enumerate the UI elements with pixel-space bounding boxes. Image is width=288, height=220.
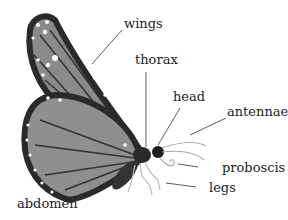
label-thorax: thorax	[135, 53, 178, 66]
label-wings: wings	[124, 17, 163, 30]
label-proboscis: proboscis	[222, 161, 285, 174]
butterfly-diagram: wings thorax head antennae proboscis leg…	[0, 0, 288, 220]
label-legs: legs	[209, 181, 236, 194]
thorax-shape	[133, 147, 151, 163]
label-antennae: antennae	[227, 105, 288, 118]
label-abdomen: abdomen	[17, 197, 78, 210]
label-head: head	[173, 90, 205, 103]
